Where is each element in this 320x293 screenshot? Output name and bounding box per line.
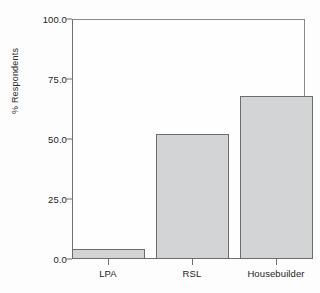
bar-slot-rsl [156, 19, 229, 259]
bar-chart: % Respondents 100.0 75.0 50.0 25.0 0.0 L… [0, 0, 320, 293]
x-tick-mark-housebuilder [276, 259, 277, 265]
x-tick-mark-rsl [192, 259, 193, 265]
y-tick-label-75: 75.0 [21, 74, 67, 85]
x-tick-mark-lpa [108, 259, 109, 265]
y-tick-label-25: 25.0 [21, 194, 67, 205]
bar-housebuilder[interactable] [240, 96, 313, 259]
x-category-label-lpa: LPA [99, 268, 117, 279]
bars-layer [72, 19, 305, 259]
bar-rsl[interactable] [156, 134, 229, 259]
y-tick-label-100: 100.0 [21, 14, 67, 25]
x-category-label-housebuilder: Housebuilder [247, 268, 304, 279]
y-tick-label-0: 0.0 [21, 254, 67, 265]
x-category-label-rsl: RSL [183, 268, 202, 279]
bar-slot-housebuilder [240, 19, 313, 259]
bar-slot-lpa [72, 19, 145, 259]
bar-lpa[interactable] [72, 249, 145, 259]
y-tick-label-50: 50.0 [21, 134, 67, 145]
